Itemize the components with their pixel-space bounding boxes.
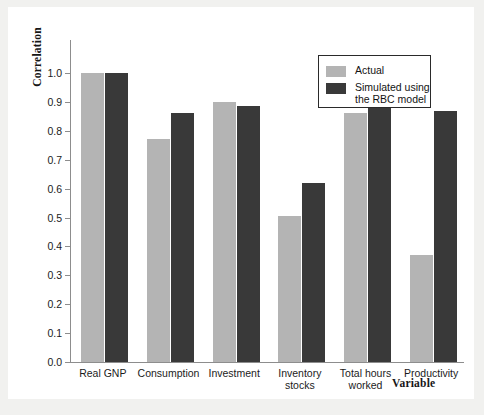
legend-item: Actual xyxy=(326,65,384,77)
bar-simulated xyxy=(171,113,194,362)
bar-actual xyxy=(147,139,170,362)
bar-simulated xyxy=(237,106,260,362)
bar-simulated xyxy=(105,73,128,362)
y-tick-mark xyxy=(65,362,70,363)
y-tick-label: 0.8 xyxy=(47,125,62,137)
y-tick-mark xyxy=(65,218,70,219)
legend-label: Actual xyxy=(355,65,384,77)
y-tick-mark xyxy=(65,304,70,305)
y-tick-mark xyxy=(65,246,70,247)
y-tick-label: 1.0 xyxy=(47,67,62,79)
x-axis-title: Variable xyxy=(392,377,435,389)
chart-sheet: Correlation 1.00.90.80.70.60.50.40.30.20… xyxy=(8,7,474,399)
legend-item: Simulated using the RBC model xyxy=(326,82,430,105)
bar-actual xyxy=(344,113,367,362)
y-tick-mark xyxy=(65,275,70,276)
legend-swatch-actual xyxy=(326,66,346,77)
y-tick-label: 0.5 xyxy=(47,212,62,224)
bar-actual xyxy=(213,102,236,362)
bar-actual xyxy=(410,255,433,362)
y-axis-title: Correlation xyxy=(31,12,43,102)
y-tick-label: 0.6 xyxy=(47,183,62,195)
y-axis-line xyxy=(70,40,71,363)
bar-simulated xyxy=(368,87,391,362)
y-tick-label: 0.7 xyxy=(47,154,62,166)
chart-legend: ActualSimulated using the RBC model xyxy=(318,55,431,108)
y-tick-label: 0.4 xyxy=(47,240,62,252)
chart-page: Correlation 1.00.90.80.70.60.50.40.30.20… xyxy=(0,0,484,415)
y-tick-mark xyxy=(65,333,70,334)
legend-swatch-simulated xyxy=(326,83,346,94)
bar-simulated xyxy=(302,183,325,362)
y-tick-label: 0.3 xyxy=(47,269,62,281)
bar-actual xyxy=(81,73,104,362)
y-tick-label: 0.0 xyxy=(47,356,62,368)
y-tick-mark xyxy=(65,189,70,190)
y-tick-label: 0.9 xyxy=(47,96,62,108)
y-tick-mark xyxy=(65,73,70,74)
legend-label: Simulated using the RBC model xyxy=(355,82,430,105)
y-tick-label: 0.2 xyxy=(47,298,62,310)
bar-simulated xyxy=(434,111,457,362)
x-axis-line xyxy=(70,362,464,363)
y-tick-label: 0.1 xyxy=(47,327,62,339)
y-tick-mark xyxy=(65,160,70,161)
bar-actual xyxy=(278,216,301,362)
y-tick-mark xyxy=(65,102,70,103)
y-tick-mark xyxy=(65,131,70,132)
